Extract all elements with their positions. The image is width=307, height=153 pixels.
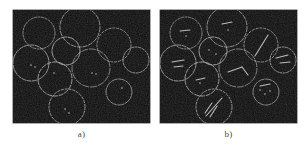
interior-speck xyxy=(215,53,217,55)
panel-b-image xyxy=(160,10,297,123)
interior-speck xyxy=(91,72,93,74)
interior-speck xyxy=(64,108,66,110)
interior-speck xyxy=(259,89,261,91)
interior-speck xyxy=(30,64,32,66)
interior-speck xyxy=(53,72,55,74)
panel-a-caption: a) xyxy=(13,130,150,139)
panel-b xyxy=(160,10,297,123)
panel-a-image xyxy=(13,10,150,123)
interior-speck xyxy=(269,90,271,92)
panel-a xyxy=(13,10,150,123)
interior-speck xyxy=(208,49,210,51)
figure-root: a)b) xyxy=(0,0,307,153)
interior-speck xyxy=(121,87,123,89)
interior-speck xyxy=(264,93,266,95)
interior-speck xyxy=(34,66,36,68)
interior-speck xyxy=(68,112,70,114)
interior-speck xyxy=(185,35,187,37)
panel-b-caption: b) xyxy=(160,130,297,139)
interior-speck xyxy=(199,82,201,84)
interior-speck xyxy=(95,73,97,75)
interior-speck xyxy=(227,29,229,31)
